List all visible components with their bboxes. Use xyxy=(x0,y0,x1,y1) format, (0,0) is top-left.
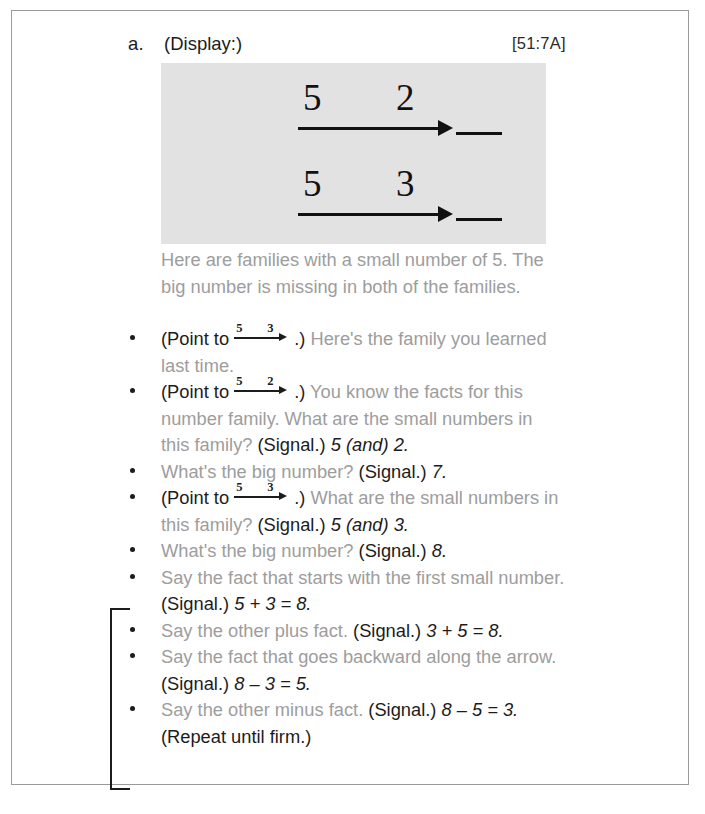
instruction-text: What's the big number? (Signal.) 7. xyxy=(161,459,566,486)
bullet-dot-icon xyxy=(130,468,135,473)
student-answer: 7. xyxy=(427,461,447,482)
point-to-suffix: .) xyxy=(294,487,305,508)
item-letter: a. xyxy=(128,33,144,55)
point-to-suffix: .) xyxy=(294,381,305,402)
signal-cue: (Signal.) xyxy=(359,540,427,561)
student-answer: 8 – 3 = 5. xyxy=(229,673,311,694)
signal-cue: (Signal.) xyxy=(161,673,229,694)
bullet-dot-icon xyxy=(130,388,135,393)
small-number-left: 5 xyxy=(303,165,322,202)
instruction-text: Say the fact that starts with the first … xyxy=(161,565,566,618)
repeat-note: (Repeat until firm.) xyxy=(161,724,566,751)
repeat-bracket xyxy=(110,608,132,790)
inline-number-family-arrow: 52 xyxy=(234,384,294,399)
inline-small-number-left: 5 xyxy=(236,375,242,388)
inline-number-family-arrow: 53 xyxy=(234,490,294,505)
student-answer: 5 (and) 3. xyxy=(326,514,409,535)
inline-arrowhead-icon xyxy=(279,386,287,394)
point-to-prefix: (Point to xyxy=(161,381,234,402)
small-number-right: 3 xyxy=(396,165,415,202)
signal-cue: (Signal.) xyxy=(161,593,229,614)
student-answer: 5 + 3 = 8. xyxy=(229,593,311,614)
small-number-right: 2 xyxy=(396,79,415,116)
arrowhead-icon xyxy=(438,120,453,136)
signal-cue: (Signal.) xyxy=(258,434,326,455)
inline-small-number-left: 5 xyxy=(236,322,242,335)
instruction-item: (Point to 52.) You know the facts for th… xyxy=(12,379,688,459)
bullet-dot-icon xyxy=(130,335,135,340)
arrow-shaft xyxy=(298,127,444,130)
inline-small-number-right: 2 xyxy=(267,375,273,388)
inline-small-number-right: 3 xyxy=(267,322,273,335)
bracket-top-tick xyxy=(110,608,130,610)
number-family-row-2: 5 3 xyxy=(161,167,546,229)
exercise-header: a. (Display:) [51:7A] xyxy=(12,33,688,59)
point-to-prefix: (Point to xyxy=(161,328,234,349)
bullet-dot-icon xyxy=(130,494,135,499)
inline-number-family-arrow: 53 xyxy=(234,331,294,346)
teacher-script-text: Say the other plus fact. xyxy=(161,620,353,641)
student-answer: 8 – 5 = 3. xyxy=(436,699,518,720)
instruction-item: What's the big number? (Signal.) 8. xyxy=(12,538,688,565)
inline-arrow-shaft xyxy=(234,337,282,339)
arrowhead-icon xyxy=(438,206,453,222)
reference-code: [51:7A] xyxy=(512,34,566,53)
teacher-script-text: Say the other minus fact. xyxy=(161,699,368,720)
display-label: (Display:) xyxy=(164,33,242,55)
point-to-suffix: .) xyxy=(294,328,305,349)
teacher-script-text: Say the fact that goes backward along th… xyxy=(161,646,556,667)
inline-arrow-shaft xyxy=(234,496,282,498)
inline-arrow-shaft xyxy=(234,390,282,392)
instruction-item: (Point to 53.) Here's the family you lea… xyxy=(12,326,688,379)
instruction-text: Say the other minus fact. (Signal.) 8 – … xyxy=(161,697,566,724)
signal-cue: (Signal.) xyxy=(359,461,427,482)
instruction-text: (Point to 53.) What are the small number… xyxy=(161,485,566,538)
bullet-dot-icon xyxy=(130,547,135,552)
signal-cue: (Signal.) xyxy=(258,514,326,535)
big-number-blank xyxy=(456,218,502,221)
student-answer: 5 (and) 2. xyxy=(326,434,409,455)
instruction-text: Say the other plus fact. (Signal.) 3 + 5… xyxy=(161,618,566,645)
student-answer: 8. xyxy=(427,540,447,561)
number-family-row-1: 5 2 xyxy=(161,81,546,143)
instruction-text: (Point to 53.) Here's the family you lea… xyxy=(161,326,566,379)
instruction-text: Say the fact that goes backward along th… xyxy=(161,644,566,697)
teacher-script-text: Say the fact that starts with the first … xyxy=(161,567,564,588)
instruction-text: What's the big number? (Signal.) 8. xyxy=(161,538,566,565)
arrow-shaft xyxy=(298,213,444,216)
instruction-text: (Point to 52.) You know the facts for th… xyxy=(161,379,566,459)
bullet-dot-icon xyxy=(130,574,135,579)
number-family-diagram: 5 2 xyxy=(298,81,503,143)
student-answer: 3 + 5 = 8. xyxy=(421,620,503,641)
inline-small-number-left: 5 xyxy=(236,481,242,494)
inline-small-number-right: 3 xyxy=(267,481,273,494)
bracket-bottom-tick xyxy=(110,788,130,790)
big-number-blank xyxy=(456,132,502,135)
point-to-prefix: (Point to xyxy=(161,487,234,508)
inline-arrowhead-icon xyxy=(279,492,287,500)
teacher-script-text: What's the big number? xyxy=(161,461,359,482)
number-family-diagram: 5 3 xyxy=(298,167,503,229)
instruction-item: What's the big number? (Signal.) 7. xyxy=(12,459,688,486)
display-panel: 5 2 5 3 xyxy=(161,63,546,244)
lesson-page: a. (Display:) [51:7A] 5 2 5 3 Here are f xyxy=(11,10,689,785)
bracket-vertical xyxy=(110,608,112,790)
teacher-script-text: What's the big number? xyxy=(161,540,359,561)
small-number-left: 5 xyxy=(303,79,322,116)
signal-cue: (Signal.) xyxy=(368,699,436,720)
instruction-item: (Point to 53.) What are the small number… xyxy=(12,485,688,538)
intro-paragraph: Here are families with a small number of… xyxy=(161,247,561,300)
inline-arrowhead-icon xyxy=(279,333,287,341)
signal-cue: (Signal.) xyxy=(353,620,421,641)
